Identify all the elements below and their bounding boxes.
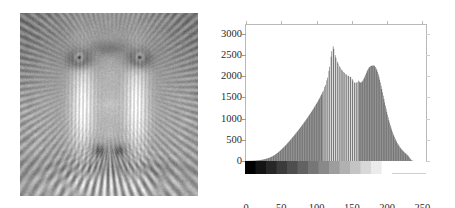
y-tick-mark-right [426,161,430,162]
grayscale-ramp-canvas [245,161,392,174]
plot-area: 050010001500200025003000050100150200250 [245,24,427,162]
y-tick-mark [242,34,246,35]
y-tick-mark-right [426,76,430,77]
x-tick-mark [387,21,388,25]
y-tick-mark [242,140,246,141]
y-tick-mark-right [426,34,430,35]
x-tick-label: 50 [276,203,287,208]
y-tick-mark-right [426,97,430,98]
x-tick-mark [281,21,282,25]
x-tick-mark [352,21,353,25]
y-tick-mark [242,55,246,56]
x-tick-mark [422,21,423,25]
y-tick-mark-right [426,119,430,120]
y-tick-mark [242,76,246,77]
y-tick-mark-right [426,55,430,56]
x-tick-label: 200 [379,203,395,208]
x-tick-label: 100 [309,203,325,208]
baboon-image-panel [20,13,198,196]
grayscale-ramp-tail [392,161,426,174]
x-tick-mark [317,21,318,25]
baboon-grayscale-photo [20,13,198,196]
x-tick-label: 150 [344,203,360,208]
y-tick-mark-right [426,140,430,141]
y-tick-mark [242,119,246,120]
y-tick-mark [242,97,246,98]
x-tick-label: 0 [243,203,248,208]
x-tick-mark [246,21,247,25]
histogram-bars [246,25,426,161]
grayscale-ramp [245,161,392,174]
x-tick-label: 250 [415,203,431,208]
